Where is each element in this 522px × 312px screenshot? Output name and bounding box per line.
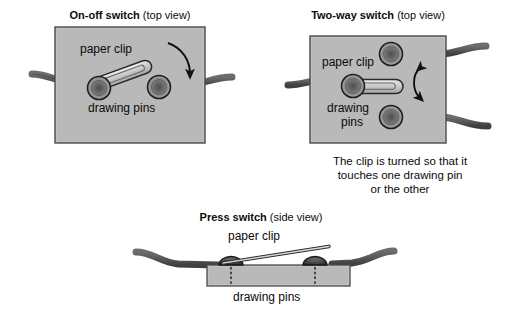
two-way-drawing-pin-center (342, 75, 365, 98)
two-way-drawing-pin-bottom (380, 106, 403, 129)
on-off-drawing-pins-label: drawing pins (88, 101, 155, 115)
on-off-drawing-pin-left (88, 77, 111, 100)
two-way-note-line-2: touches one drawing pin (300, 168, 500, 182)
two-way-drawing-pins-label-line2: pins (341, 115, 363, 129)
two-way-switch-heading: Two-way switch (top view) (303, 9, 453, 22)
two-way-drawing-pin-top (380, 43, 403, 66)
two-way-note-line-3: or the other (300, 182, 500, 196)
on-off-drawing-pin-right (148, 76, 171, 99)
two-way-switch-heading-bold: Two-way switch (311, 9, 394, 21)
two-way-switch-note: The clip is turned so that it touches on… (300, 154, 500, 196)
press-wire-right (332, 251, 394, 264)
press-board (207, 265, 350, 286)
press-switch-heading: Press switch (side view) (186, 211, 336, 224)
two-way-note-line-1: The clip is turned so that it (300, 154, 500, 168)
press-paper-clip-label: paper clip (228, 229, 280, 243)
two-way-drawing-pins-label-line1: drawing (327, 101, 369, 115)
two-way-paper-clip-label: paper clip (322, 55, 374, 69)
switch-diagram-page: On-off switch (top view) (0, 0, 522, 312)
press-wire-left (136, 252, 218, 265)
press-drawing-pins-label: drawing pins (233, 290, 300, 304)
press-switch-heading-view: (side view) (267, 211, 323, 223)
press-switch-heading-bold: Press switch (200, 211, 267, 223)
on-off-paper-clip-label: paper clip (80, 42, 132, 56)
two-way-switch-heading-view: (top view) (394, 9, 445, 21)
press-drawing-pin-right (303, 257, 327, 266)
